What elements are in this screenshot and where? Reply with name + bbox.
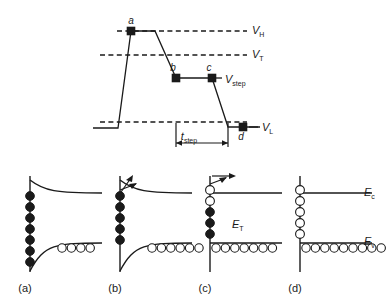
point-label-c: c [207, 62, 212, 73]
voltage-label-Vstep: Vstep [225, 73, 246, 88]
panel-b-valence-circle-4 [185, 244, 193, 252]
voltage-label-VH: VH [252, 24, 264, 38]
panel-d-carrier-open-0-2 [296, 208, 305, 217]
panel-a-carrier-filled-0-3 [26, 225, 35, 234]
voltage-label-VT: VT [252, 48, 264, 62]
deep-level-transient-figure: abcdVHVTVstepVLtstep(a)(b)ET(c)EcEv(d) [0, 0, 392, 307]
panel-a-carrier-filled-0-6 [26, 258, 35, 267]
panel-d-band-edge-label-0: Ec [364, 186, 375, 200]
point-label-d: d [238, 131, 244, 142]
figure-root: abcdVHVTVstepVLtstep(a)(b)ET(c)EcEv(d) [0, 0, 392, 307]
panel-d-carrier-open-0-0 [296, 186, 305, 195]
panel-a-valence-circle-1 [67, 244, 75, 252]
panel-caption-c: (c) [199, 282, 212, 294]
panel-d-valence-circle-8 [377, 244, 385, 252]
panel-b-valence-circle-0 [148, 244, 156, 252]
panel-c-valence-circle-6 [268, 244, 276, 252]
panel-caption-d: (d) [288, 282, 301, 294]
panel-a-carrier-filled-0-1 [26, 203, 35, 212]
panel-d-valence-circle-3 [330, 244, 338, 252]
panel-b-carrier-filled-0-0 [116, 192, 125, 201]
panel-c-valence-circle-2 [231, 244, 239, 252]
panel-d-valence-circle-0 [302, 244, 310, 252]
panel-c-carrier-open-0-0 [206, 186, 215, 195]
panel-a-conduction-band [30, 180, 102, 193]
panel-a-valence-circle-3 [86, 244, 94, 252]
panel-d-valence-circle-2 [321, 244, 329, 252]
panel-caption-a: (a) [18, 282, 31, 294]
panel-b-carrier-filled-0-2 [116, 214, 125, 223]
waveform-marker-b [172, 74, 180, 82]
panel-c-valence-circle-1 [221, 244, 229, 252]
panel-c-valence-circle-0 [212, 244, 220, 252]
panel-c-valence-circle-4 [249, 244, 257, 252]
panel-b-valence-circle-1 [157, 244, 165, 252]
panel-d-band-edge-label-1: Ev [364, 235, 375, 249]
panel-c-trap-level-label: ET [232, 218, 244, 232]
panel-c-emission-arrowhead-horiz [229, 173, 236, 179]
panel-c-carrier-filled-1-1 [206, 219, 215, 228]
panel-a-carrier-filled-0-5 [26, 247, 35, 256]
panel-b-valence-circle-2 [167, 244, 175, 252]
panel-b-valence-circle-5 [195, 244, 203, 252]
panel-c-valence-circle-3 [240, 244, 248, 252]
panel-a-carrier-filled-0-2 [26, 214, 35, 223]
panel-a-carrier-filled-0-0 [26, 192, 35, 201]
panel-d-carrier-open-0-1 [296, 197, 305, 206]
tstep-label: tstep [181, 130, 197, 145]
panel-b-emission-arrowhead-up [126, 175, 133, 182]
panel-b-valence-circle-3 [176, 244, 184, 252]
panel-d-valence-circle-4 [339, 244, 347, 252]
panel-c-carrier-filled-1-0 [206, 208, 215, 217]
panel-a-valence-circle-2 [77, 244, 85, 252]
panel-b-carrier-filled-0-4 [116, 236, 125, 245]
tstep-arrowhead-right [222, 140, 228, 146]
panel-d-valence-circle-5 [349, 244, 357, 252]
panel-b-carrier-filled-0-1 [116, 203, 125, 212]
waveform-marker-d [239, 123, 247, 131]
panel-caption-b: (b) [108, 282, 121, 294]
point-label-b: b [170, 62, 176, 73]
panel-c-carrier-open-0-1 [206, 197, 215, 206]
panel-c-valence-circle-5 [259, 244, 267, 252]
panel-b-carrier-filled-0-3 [116, 225, 125, 234]
panel-a-valence-circle-0 [58, 244, 66, 252]
panel-c-carrier-filled-1-2 [206, 230, 215, 239]
panel-d-carrier-open-0-3 [296, 219, 305, 228]
panel-d-valence-circle-1 [311, 244, 319, 252]
point-label-a: a [128, 15, 134, 26]
voltage-label-VL: VL [262, 121, 273, 135]
panel-d-carrier-open-0-4 [296, 230, 305, 239]
waveform-marker-a [127, 27, 135, 35]
panel-a-carrier-filled-0-4 [26, 236, 35, 245]
